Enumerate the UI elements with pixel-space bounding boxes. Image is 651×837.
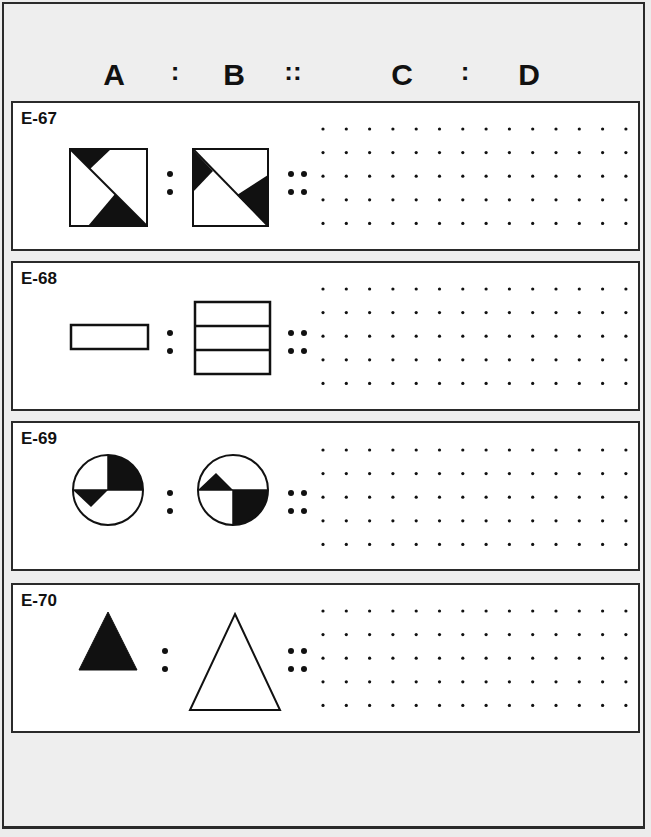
grid-dot[interactable] <box>578 358 581 361</box>
grid-dot[interactable] <box>601 519 604 522</box>
grid-dot[interactable] <box>601 704 604 707</box>
grid-dot[interactable] <box>601 543 604 546</box>
grid-dot[interactable] <box>438 609 441 612</box>
grid-dot[interactable] <box>438 472 441 475</box>
grid-dot[interactable] <box>438 198 441 201</box>
grid-dot[interactable] <box>624 633 627 636</box>
grid-dot[interactable] <box>415 609 418 612</box>
grid-dot[interactable] <box>601 657 604 660</box>
grid-dot[interactable] <box>554 198 557 201</box>
grid-dot[interactable] <box>578 633 581 636</box>
grid-dot[interactable] <box>485 175 488 178</box>
grid-dot[interactable] <box>321 448 324 451</box>
grid-dot[interactable] <box>438 448 441 451</box>
grid-dot[interactable] <box>415 680 418 683</box>
grid-dot[interactable] <box>345 657 348 660</box>
grid-dot[interactable] <box>485 358 488 361</box>
grid-dot[interactable] <box>624 198 627 201</box>
grid-dot[interactable] <box>438 311 441 314</box>
grid-dot[interactable] <box>531 311 534 314</box>
grid-dot[interactable] <box>624 175 627 178</box>
grid-dot[interactable] <box>321 704 324 707</box>
grid-dot[interactable] <box>601 358 604 361</box>
grid-dot[interactable] <box>345 335 348 338</box>
grid-dot[interactable] <box>415 543 418 546</box>
grid-dot[interactable] <box>415 519 418 522</box>
grid-dot[interactable] <box>321 287 324 290</box>
grid-dot[interactable] <box>578 382 581 385</box>
grid-dot[interactable] <box>391 358 394 361</box>
grid-dot[interactable] <box>345 358 348 361</box>
grid-dot[interactable] <box>578 543 581 546</box>
grid-dot[interactable] <box>508 175 511 178</box>
grid-dot[interactable] <box>461 335 464 338</box>
grid-dot[interactable] <box>531 175 534 178</box>
grid-dot[interactable] <box>461 382 464 385</box>
grid-dot[interactable] <box>554 335 557 338</box>
grid-dot[interactable] <box>601 198 604 201</box>
grid-dot[interactable] <box>321 382 324 385</box>
grid-dot[interactable] <box>531 472 534 475</box>
grid-dot[interactable] <box>624 448 627 451</box>
grid-dot[interactable] <box>531 680 534 683</box>
grid-dot[interactable] <box>391 151 394 154</box>
grid-dot[interactable] <box>578 609 581 612</box>
grid-dot[interactable] <box>461 680 464 683</box>
grid-dot[interactable] <box>321 175 324 178</box>
grid-dot[interactable] <box>485 609 488 612</box>
grid-dot[interactable] <box>461 472 464 475</box>
grid-dot[interactable] <box>601 175 604 178</box>
grid-dot[interactable] <box>321 222 324 225</box>
grid-dot[interactable] <box>415 335 418 338</box>
answer-dot-grid[interactable] <box>13 585 642 735</box>
grid-dot[interactable] <box>578 198 581 201</box>
grid-dot[interactable] <box>461 358 464 361</box>
grid-dot[interactable] <box>554 680 557 683</box>
grid-dot[interactable] <box>321 680 324 683</box>
grid-dot[interactable] <box>554 287 557 290</box>
grid-dot[interactable] <box>345 311 348 314</box>
grid-dot[interactable] <box>601 151 604 154</box>
grid-dot[interactable] <box>554 519 557 522</box>
grid-dot[interactable] <box>368 311 371 314</box>
grid-dot[interactable] <box>578 335 581 338</box>
grid-dot[interactable] <box>321 335 324 338</box>
grid-dot[interactable] <box>578 311 581 314</box>
grid-dot[interactable] <box>531 358 534 361</box>
grid-dot[interactable] <box>531 448 534 451</box>
grid-dot[interactable] <box>368 222 371 225</box>
grid-dot[interactable] <box>415 358 418 361</box>
grid-dot[interactable] <box>415 472 418 475</box>
grid-dot[interactable] <box>368 704 371 707</box>
grid-dot[interactable] <box>391 633 394 636</box>
grid-dot[interactable] <box>485 704 488 707</box>
grid-dot[interactable] <box>391 335 394 338</box>
grid-dot[interactable] <box>554 382 557 385</box>
grid-dot[interactable] <box>485 680 488 683</box>
grid-dot[interactable] <box>391 382 394 385</box>
grid-dot[interactable] <box>461 287 464 290</box>
grid-dot[interactable] <box>578 127 581 130</box>
grid-dot[interactable] <box>531 657 534 660</box>
grid-dot[interactable] <box>368 519 371 522</box>
grid-dot[interactable] <box>391 519 394 522</box>
grid-dot[interactable] <box>531 704 534 707</box>
grid-dot[interactable] <box>345 222 348 225</box>
grid-dot[interactable] <box>461 151 464 154</box>
grid-dot[interactable] <box>624 151 627 154</box>
grid-dot[interactable] <box>531 151 534 154</box>
grid-dot[interactable] <box>438 358 441 361</box>
grid-dot[interactable] <box>345 609 348 612</box>
grid-dot[interactable] <box>368 287 371 290</box>
grid-dot[interactable] <box>508 680 511 683</box>
grid-dot[interactable] <box>601 287 604 290</box>
grid-dot[interactable] <box>438 335 441 338</box>
grid-dot[interactable] <box>624 358 627 361</box>
grid-dot[interactable] <box>554 127 557 130</box>
grid-dot[interactable] <box>461 198 464 201</box>
grid-dot[interactable] <box>461 633 464 636</box>
grid-dot[interactable] <box>438 287 441 290</box>
grid-dot[interactable] <box>578 175 581 178</box>
grid-dot[interactable] <box>508 633 511 636</box>
grid-dot[interactable] <box>391 175 394 178</box>
